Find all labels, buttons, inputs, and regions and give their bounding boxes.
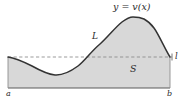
shaded-region-area [8,17,170,88]
region-label: S [130,64,137,74]
level-line-label: l [175,52,178,61]
figure-canvas [0,0,187,104]
curve-name-label: y = v(x) [113,2,151,12]
arc-label: L [92,32,98,41]
right-bound-label: b [167,90,172,98]
math-figure: y = v(x) L S a b l [0,0,187,104]
left-bound-label: a [6,90,11,98]
